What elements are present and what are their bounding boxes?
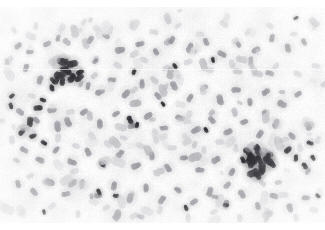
microscopy-image-viewport bbox=[0, 0, 325, 230]
microscopy-smear-image bbox=[0, 0, 325, 230]
